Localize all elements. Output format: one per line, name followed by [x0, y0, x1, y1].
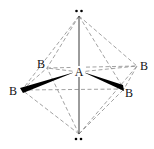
octahedral-diagram: A B B B B — [0, 0, 154, 149]
lone-pair-bottom — [75, 138, 83, 141]
ligand-front-right-label: B — [125, 86, 133, 100]
lone-pair-top — [75, 10, 83, 13]
ligand-front-left-label: B — [9, 84, 17, 98]
wedge-bond-front-left — [20, 72, 75, 93]
ligand-back-left-label: B — [37, 57, 45, 71]
ligand-back-right-label: B — [140, 59, 148, 73]
central-atom-label: A — [75, 65, 84, 79]
